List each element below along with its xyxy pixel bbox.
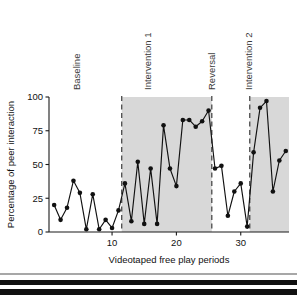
phase-label-reversal: Reversal — [206, 53, 217, 91]
y-tick-label-50: 50 — [32, 159, 43, 170]
phase-label-baseline: Baseline — [71, 54, 82, 90]
y-axis-title: Percentage of peer interaction — [5, 101, 16, 228]
data-point — [110, 226, 115, 231]
data-point — [90, 192, 95, 197]
data-point — [103, 218, 108, 223]
data-point — [206, 108, 211, 113]
data-point — [135, 160, 140, 165]
chart-figure: 0255075100 102030 Percentage of peer int… — [0, 0, 297, 295]
x-tick-label-10: 10 — [107, 237, 118, 248]
data-point — [123, 181, 128, 186]
data-point — [277, 158, 282, 163]
data-point — [161, 123, 166, 128]
data-point — [226, 214, 231, 219]
data-point — [129, 219, 134, 224]
y-tick-label-100: 100 — [27, 91, 43, 102]
phase-label-intervention-2: Intervention 2 — [243, 32, 254, 90]
intervention-2-shading — [250, 97, 289, 232]
data-point — [78, 191, 83, 196]
data-point — [232, 189, 237, 194]
x-tick-label-group: 102030 — [107, 237, 246, 248]
data-point — [58, 218, 63, 223]
data-point — [71, 178, 76, 183]
data-point — [283, 149, 288, 154]
data-point — [181, 118, 186, 123]
y-tick-label-75: 75 — [32, 125, 43, 136]
x-axis-title: Videotaped free play periods — [109, 254, 230, 265]
y-tick-label-0: 0 — [38, 226, 43, 237]
data-point — [251, 150, 256, 155]
data-point — [200, 119, 205, 124]
data-point — [264, 99, 269, 104]
page-footer-rules — [0, 274, 297, 295]
data-point — [213, 166, 218, 171]
data-point — [271, 189, 276, 194]
data-point — [52, 203, 57, 208]
data-point — [148, 166, 153, 171]
data-point — [258, 106, 263, 111]
data-point — [245, 224, 250, 229]
data-point — [84, 227, 89, 232]
data-point — [187, 118, 192, 123]
data-point — [193, 124, 198, 129]
single-subject-line-chart: 0255075100 102030 Percentage of peer int… — [0, 0, 297, 295]
phase-label-intervention-1: Intervention 1 — [142, 32, 153, 90]
x-tick-label-20: 20 — [171, 237, 182, 248]
data-point — [97, 227, 102, 232]
data-point — [168, 166, 173, 171]
data-point — [155, 222, 160, 227]
data-point — [238, 181, 243, 186]
y-tick-label-25: 25 — [32, 193, 43, 204]
phase-shading-group — [122, 97, 289, 232]
data-point — [219, 164, 224, 169]
y-tick-label-group: 0255075100 — [27, 91, 43, 237]
intervention-1-shading — [122, 97, 212, 232]
data-point — [174, 184, 179, 189]
x-tick-label-30: 30 — [235, 237, 246, 248]
data-point — [142, 222, 147, 227]
data-point — [116, 208, 121, 213]
data-point — [65, 205, 70, 210]
